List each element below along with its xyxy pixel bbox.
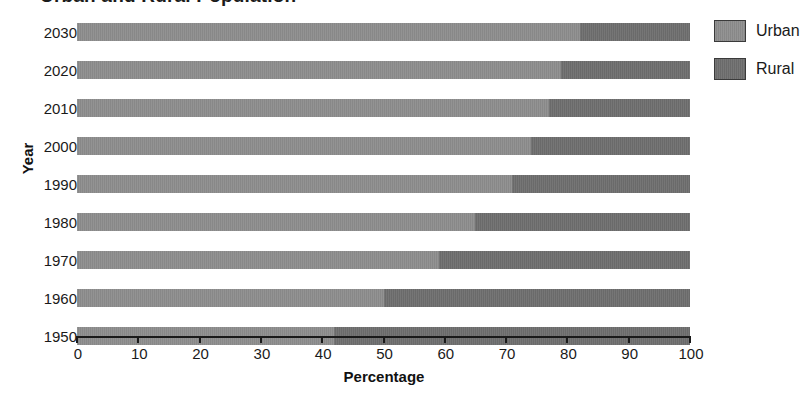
x-tick-label: 50 (365, 345, 405, 362)
bar-segment-rural (549, 99, 690, 117)
y-tick-label: 1980 (7, 214, 77, 231)
x-tick (260, 336, 262, 343)
chart-legend: Urban Rural (714, 16, 809, 92)
bar-row (77, 137, 690, 155)
y-tick-label: 2020 (7, 62, 77, 79)
bar-row (77, 99, 690, 117)
legend-item-urban: Urban (714, 16, 809, 46)
bar-segment-rural (384, 289, 691, 307)
bar-segment-rural (531, 137, 690, 155)
y-tick-label: 2000 (7, 138, 77, 155)
y-tick-label: 1950 (7, 328, 77, 345)
x-tick (566, 336, 568, 343)
bar-segment-urban (77, 23, 580, 41)
x-tick (383, 336, 385, 343)
x-tick-label: 0 (58, 345, 98, 362)
x-tick-label: 90 (610, 345, 650, 362)
bar-row (77, 251, 690, 269)
legend-swatch-rural (714, 58, 746, 80)
legend-item-rural: Rural (714, 54, 809, 84)
x-tick-label: 30 (242, 345, 282, 362)
x-tick (199, 336, 201, 343)
x-tick-label: 60 (426, 345, 466, 362)
stacked-bar-chart: Urban and Rural Population Year Percenta… (0, 0, 811, 393)
x-tick (321, 336, 323, 343)
x-tick (689, 336, 691, 343)
x-tick (628, 336, 630, 343)
x-tick (137, 336, 139, 343)
bar-row (77, 23, 690, 41)
y-tick-label: 1960 (7, 290, 77, 307)
bar-segment-rural (580, 23, 690, 41)
bar-row (77, 61, 690, 79)
chart-title-clipped: Urban and Rural Population (0, 0, 811, 9)
y-tick-label: 2030 (7, 24, 77, 41)
bar-segment-rural (512, 175, 690, 193)
legend-swatch-urban (714, 20, 746, 42)
bar-row (77, 213, 690, 231)
x-tick-label: 40 (303, 345, 343, 362)
y-tick-label: 1990 (7, 176, 77, 193)
legend-label-urban: Urban (756, 22, 800, 40)
x-tick (76, 336, 78, 343)
bar-segment-urban (77, 99, 549, 117)
y-tick-label: 1970 (7, 252, 77, 269)
bar-segment-rural (475, 213, 690, 231)
bar-segment-rural (561, 61, 690, 79)
bar-segment-urban (77, 213, 475, 231)
legend-label-rural: Rural (756, 60, 794, 78)
x-tick-label: 20 (181, 345, 221, 362)
x-tick-label: 100 (671, 345, 711, 362)
x-tick-label: 10 (119, 345, 159, 362)
bar-segment-urban (77, 61, 561, 79)
chart-title: Urban and Rural Population (40, 0, 296, 7)
x-tick-label: 80 (548, 345, 588, 362)
bar-segment-urban (77, 175, 512, 193)
plot-area (77, 9, 690, 336)
bar-segment-rural (439, 251, 690, 269)
bar-segment-urban (77, 137, 531, 155)
x-tick-label: 70 (487, 345, 527, 362)
x-axis-title: Percentage (77, 368, 691, 385)
bar-row (77, 289, 690, 307)
x-tick (505, 336, 507, 343)
bar-segment-urban (77, 251, 439, 269)
bar-segment-urban (77, 289, 384, 307)
y-tick-label: 2010 (7, 100, 77, 117)
x-tick (444, 336, 446, 343)
bar-row (77, 175, 690, 193)
